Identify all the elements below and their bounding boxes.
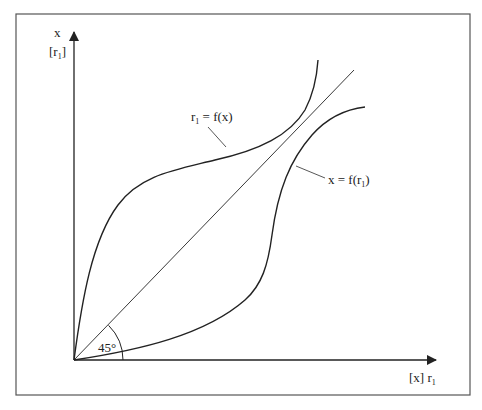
y-axis-label-x: x: [54, 25, 61, 40]
diagram: x [r1] [x] r1 r1 = f(x) x = f(r1) 45°: [0, 0, 482, 410]
angle-label: 45°: [98, 340, 116, 355]
lower-curve-leader: [296, 166, 325, 178]
lower-curve: [74, 107, 365, 360]
y-axis-label-r1: [r1]: [49, 44, 66, 61]
upper-curve-label: r1 = f(x): [191, 109, 233, 126]
frame-border: [16, 14, 470, 395]
upper-curve-leader: [208, 127, 226, 147]
lower-curve-label: x = f(r1): [328, 172, 370, 189]
x-axis-label: [x] r1: [409, 370, 436, 387]
upper-curve: [74, 60, 318, 360]
